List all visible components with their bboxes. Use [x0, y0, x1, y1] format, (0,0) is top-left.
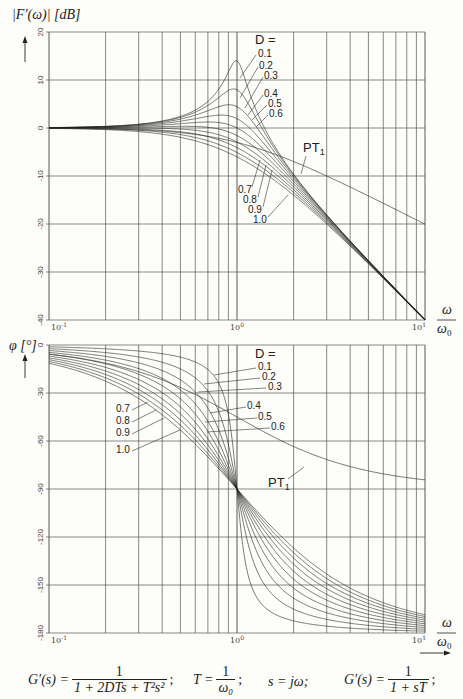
formula-t-lhs: T =: [193, 672, 213, 688]
formula-pt2-fraction: 1 1 + 2DTs + T²s²: [72, 664, 167, 695]
d-value-label: 0.1: [258, 48, 272, 59]
formula-t-denominator: ω₀: [216, 679, 235, 695]
leader-line: [214, 368, 256, 375]
formula-pt2-denominator: 1 + 2DTs + T²s²: [72, 679, 167, 695]
leader-line: [252, 160, 260, 187]
y-tick-label: 10: [36, 75, 45, 84]
top-x-ticks: 10-1 100 101: [51, 321, 426, 332]
formula-pt2-transfer: G′(s) = 1 1 + 2DTs + T²s² ;: [28, 664, 173, 695]
y-tick-label: 0: [36, 125, 45, 130]
formula-pt1-numerator: 1: [403, 664, 414, 679]
phase-grid: [46, 345, 425, 633]
svg-text:101: 101: [412, 321, 426, 332]
svg-text:ω0: ω0: [437, 321, 452, 338]
y-tick-label: 0: [36, 342, 45, 347]
y-tick-label: 20: [36, 27, 45, 36]
formula-pt1-lhs: G′(s) =: [344, 672, 385, 688]
leader-line: [132, 402, 148, 410]
phase-legend-title: D =: [255, 346, 276, 361]
formula-pt1-transfer: G′(s) = 1 1 + sT ;: [344, 664, 435, 695]
bottom-x-ticks: 10-1 100 101: [51, 634, 426, 645]
svg-text:PT1: PT1: [268, 475, 290, 492]
bode-plot: 20100-10-20-30-40 |F′(ω)| [dB] D = 0.10.…: [0, 0, 463, 699]
svg-text:ω: ω: [442, 302, 452, 317]
d-value-label: 0.8: [116, 415, 130, 426]
leader-line: [132, 410, 156, 422]
y-tick-label: -60: [36, 435, 45, 447]
phase-y-label: φ [°]: [9, 338, 37, 353]
formula-t-numerator: 1: [220, 664, 231, 679]
d-value-label: 0.6: [271, 421, 285, 432]
d-value-label: 1.0: [116, 444, 130, 455]
pt1-leader-line: [288, 467, 304, 479]
formula-pt2-lhs: G′(s) =: [28, 672, 69, 688]
top-x-label: ω ω0: [437, 302, 456, 338]
y-tick-label: -30: [36, 266, 45, 278]
d-value-label: 0.3: [268, 381, 282, 392]
y-tick-label: -150: [36, 576, 45, 593]
leader-line: [205, 418, 257, 422]
leader-line: [245, 77, 263, 108]
leader-line: [248, 95, 263, 115]
formula-t-fraction: 1 ω₀: [216, 664, 235, 695]
leader-line: [132, 418, 164, 434]
phase-d-labels: 0.10.20.30.40.50.60.70.80.91.0: [116, 361, 304, 479]
phase-pt1-label: PT1: [268, 475, 290, 492]
svg-text:100: 100: [230, 634, 244, 645]
svg-text:ω0: ω0: [437, 634, 452, 651]
svg-text:100: 100: [230, 321, 244, 332]
amplitude-legend-title: D =: [255, 32, 276, 47]
svg-text:10-1: 10-1: [51, 321, 67, 332]
d-value-label: 0.4: [247, 400, 261, 411]
amplitude-pt1-label: PT1: [303, 140, 325, 157]
amplitude-grid: [46, 32, 425, 320]
x-axis-arrow-icon: [420, 651, 451, 656]
leader-line: [268, 195, 288, 217]
amplitude-y-label: |F′(ω)| [dB]: [12, 7, 80, 23]
y-tick-label: -20: [36, 218, 45, 230]
d-value-label: 0.7: [116, 403, 130, 414]
y-tick-label: -30: [36, 387, 45, 399]
formula-pt1-fraction: 1 1 + sT: [388, 664, 429, 695]
y-tick-label: -90: [36, 483, 45, 495]
svg-text:ω: ω: [442, 615, 452, 630]
leader-line: [204, 378, 260, 384]
amplitude-y-arrow-icon: [23, 36, 28, 62]
formula-pt2-numerator: 1: [114, 664, 125, 679]
leader-line: [132, 430, 180, 451]
d-value-label: 0.9: [116, 427, 130, 438]
y-tick-label: -120: [36, 528, 45, 545]
amplitude-y-ticks: 20100-10-20-30-40: [36, 27, 45, 326]
d-value-label: 0.3: [264, 70, 278, 81]
phase-y-ticks: 0-30-60-90-120-150-180: [36, 342, 45, 641]
amplitude-chart: 20100-10-20-30-40 |F′(ω)| [dB] D = 0.10.…: [12, 7, 425, 326]
d-value-label: 1.0: [253, 214, 267, 225]
bottom-x-label: ω ω0: [437, 615, 456, 651]
svg-text:101: 101: [412, 634, 426, 645]
phase-chart: 0-30-60-90-120-150-180 φ [°] D = 0.10.20…: [9, 338, 425, 641]
y-tick-label: -40: [36, 314, 45, 326]
formula-pt1-denominator: 1 + sT: [388, 679, 429, 695]
formula-time-constant: T = 1 ω₀ ;: [193, 664, 242, 695]
phase-y-arrow-icon: [23, 354, 28, 378]
y-tick-label: -10: [36, 170, 45, 182]
amplitude-d-labels: 0.10.20.30.40.50.60.70.80.91.0: [238, 48, 306, 225]
d-value-label: 0.6: [269, 108, 283, 119]
formula-s-definition: s = jω;: [268, 674, 308, 690]
y-tick-label: -180: [36, 624, 45, 641]
svg-text:PT1: PT1: [303, 140, 325, 157]
svg-text:10-1: 10-1: [51, 634, 67, 645]
